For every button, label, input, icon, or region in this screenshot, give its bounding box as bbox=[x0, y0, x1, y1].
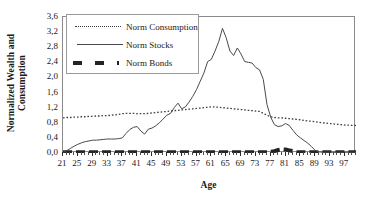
x-tick-mark bbox=[221, 152, 222, 155]
x-tick-mark bbox=[299, 152, 300, 156]
x-tick-mark bbox=[118, 152, 119, 155]
x-tick-mark bbox=[348, 152, 349, 155]
x-tick-mark bbox=[355, 152, 356, 155]
x-tick-label: 65 bbox=[221, 158, 230, 169]
x-tick-mark bbox=[229, 152, 230, 155]
x-tick-label: 21 bbox=[58, 158, 67, 169]
x-tick-mark bbox=[255, 152, 256, 156]
x-tick-label: 89 bbox=[310, 158, 319, 169]
x-tick-mark bbox=[125, 152, 126, 155]
x-tick-mark bbox=[307, 152, 308, 155]
x-tick-mark bbox=[144, 152, 145, 155]
x-tick-label: 61 bbox=[206, 158, 215, 169]
x-tick-mark bbox=[285, 152, 286, 156]
x-tick-mark bbox=[247, 152, 248, 155]
x-tick-label: 25 bbox=[72, 158, 81, 169]
x-tick-mark bbox=[233, 152, 234, 155]
x-tick-mark bbox=[173, 152, 174, 155]
x-tick-mark bbox=[266, 152, 267, 155]
x-tick-mark bbox=[192, 152, 193, 155]
x-tick-mark bbox=[184, 152, 185, 155]
x-tick-label: 57 bbox=[191, 158, 200, 169]
solid-line-sample-icon bbox=[71, 39, 123, 51]
x-tick-mark bbox=[88, 152, 89, 155]
legend-label: Norm Stocks bbox=[123, 40, 173, 50]
x-tick-mark bbox=[81, 152, 82, 155]
x-tick-label: 69 bbox=[236, 158, 245, 169]
x-tick-mark bbox=[162, 152, 163, 155]
x-tick-mark bbox=[196, 152, 197, 156]
x-tick-mark bbox=[62, 152, 63, 156]
y-axis-tick-labels: 0,00,40,81,21,62,02,42,83,23,6 bbox=[34, 10, 60, 158]
x-tick-mark bbox=[84, 152, 85, 155]
x-tick-mark bbox=[77, 152, 78, 156]
x-tick-mark bbox=[114, 152, 115, 155]
x-tick-mark bbox=[244, 152, 245, 155]
x-tick-mark bbox=[158, 152, 159, 155]
x-tick-label: 81 bbox=[280, 158, 289, 169]
x-tick-mark bbox=[140, 152, 141, 155]
legend: Norm Consumption Norm Stocks Norm Bonds bbox=[66, 14, 199, 74]
y-tick-label: 1,6 bbox=[47, 87, 58, 96]
x-tick-mark bbox=[277, 152, 278, 155]
y-tick-label: 1,2 bbox=[47, 102, 58, 111]
y-tick-label: 3,2 bbox=[47, 27, 58, 36]
x-tick-mark bbox=[210, 152, 211, 156]
x-tick-mark bbox=[322, 152, 323, 155]
x-tick-mark bbox=[292, 152, 293, 155]
dashed-band-sample-icon bbox=[71, 57, 123, 69]
x-tick-label: 85 bbox=[295, 158, 304, 169]
y-axis-title-line2: Consumption bbox=[17, 34, 28, 133]
y-tick-label: 2,0 bbox=[47, 72, 58, 81]
x-tick-mark bbox=[73, 152, 74, 155]
x-axis-tick-labels: 2125293337414549535761656973778185899397 bbox=[62, 158, 355, 171]
y-axis-title: Normalized Wealth and Consumption bbox=[0, 0, 34, 166]
x-tick-mark bbox=[329, 152, 330, 156]
x-tick-mark bbox=[66, 152, 67, 155]
x-axis-title: Age bbox=[62, 180, 355, 190]
x-tick-mark bbox=[132, 152, 133, 155]
x-tick-label: 29 bbox=[87, 158, 96, 169]
x-tick-mark bbox=[129, 152, 130, 155]
legend-label: Norm Consumption bbox=[123, 22, 198, 32]
x-tick-mark bbox=[155, 152, 156, 155]
y-tick-label: 2,8 bbox=[47, 42, 58, 51]
x-tick-mark bbox=[318, 152, 319, 155]
x-tick-label: 53 bbox=[176, 158, 185, 169]
x-tick-mark bbox=[110, 152, 111, 155]
x-tick-label: 41 bbox=[132, 158, 141, 169]
y-tick-label: 0,8 bbox=[47, 117, 58, 126]
x-tick-mark bbox=[236, 152, 237, 155]
x-tick-label: 73 bbox=[250, 158, 259, 169]
x-tick-mark bbox=[251, 152, 252, 155]
x-tick-mark bbox=[262, 152, 263, 155]
x-tick-mark bbox=[288, 152, 289, 155]
x-tick-label: 49 bbox=[161, 158, 170, 169]
x-tick-mark bbox=[281, 152, 282, 155]
x-tick-mark bbox=[303, 152, 304, 155]
x-tick-mark bbox=[107, 152, 108, 156]
x-tick-mark bbox=[121, 152, 122, 156]
x-tick-mark bbox=[207, 152, 208, 155]
x-tick-mark bbox=[170, 152, 171, 155]
legend-item-norm-bonds: Norm Bonds bbox=[71, 54, 194, 72]
x-tick-mark bbox=[147, 152, 148, 155]
y-tick-label: 3,6 bbox=[47, 12, 58, 21]
x-tick-mark bbox=[99, 152, 100, 155]
x-tick-mark bbox=[225, 152, 226, 156]
x-tick-mark bbox=[136, 152, 137, 156]
y-tick-label: 2,4 bbox=[47, 57, 58, 66]
x-tick-mark bbox=[181, 152, 182, 156]
x-tick-label: 93 bbox=[325, 158, 334, 169]
x-tick-mark bbox=[177, 152, 178, 155]
x-tick-mark bbox=[314, 152, 315, 156]
x-tick-mark bbox=[214, 152, 215, 155]
x-tick-label: 45 bbox=[147, 158, 156, 169]
x-tick-mark bbox=[188, 152, 189, 155]
x-tick-mark bbox=[259, 152, 260, 155]
x-tick-mark bbox=[296, 152, 297, 155]
x-tick-mark bbox=[203, 152, 204, 155]
x-axis-tick-marks bbox=[62, 152, 355, 157]
x-tick-mark bbox=[166, 152, 167, 156]
chart-figure: Normalized Wealth and Consumption 0,00,4… bbox=[0, 0, 369, 206]
